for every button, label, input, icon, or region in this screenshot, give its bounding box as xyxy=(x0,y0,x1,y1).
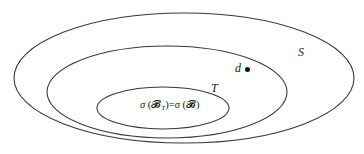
nested-sets-diagram xyxy=(0,0,364,154)
set-s-ellipse xyxy=(14,13,354,143)
point-d-label: d xyxy=(235,62,241,74)
paren-close: ) xyxy=(196,99,200,110)
set-t-ellipse xyxy=(47,46,287,138)
script-b-symbol: 𝓑 xyxy=(151,99,161,110)
set-s-label: S xyxy=(298,46,304,58)
sigma-equation-label: σ (𝓑T)=σ (𝓑) xyxy=(140,100,199,112)
point-d-dot-icon xyxy=(245,67,250,72)
set-t-label: T xyxy=(211,82,218,94)
script-b-symbol: 𝓑 xyxy=(186,99,196,110)
